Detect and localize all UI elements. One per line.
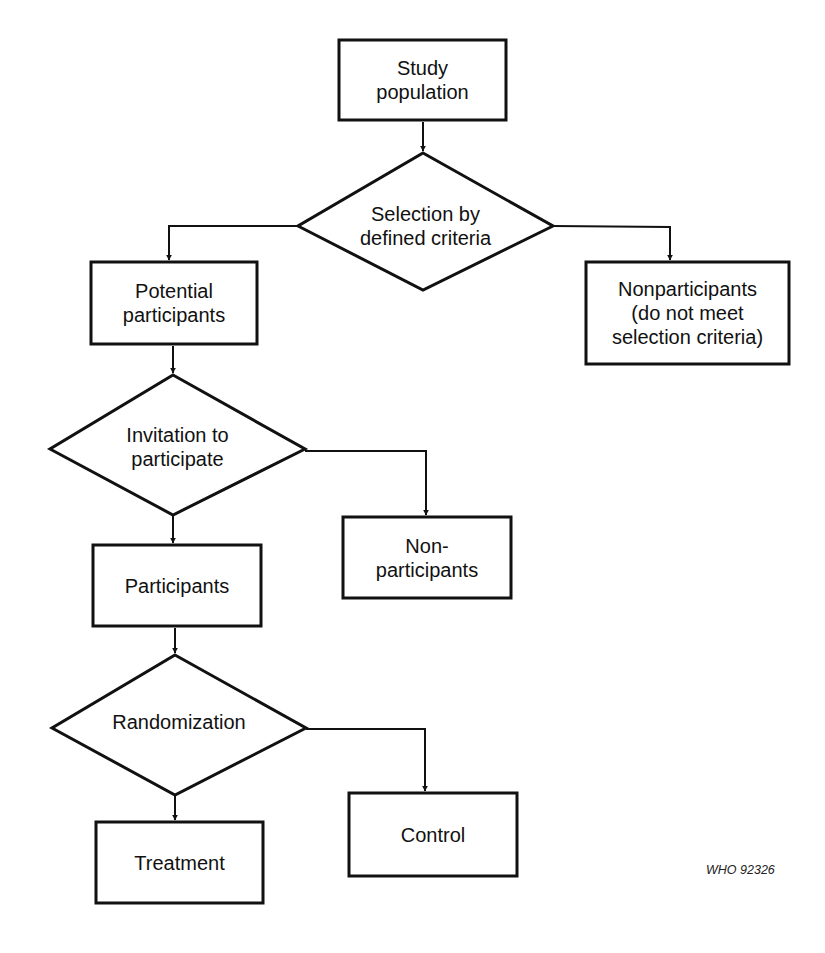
label-selection: Selection by defined criteria	[298, 186, 553, 266]
arrow-randomization-to-control	[306, 729, 425, 791]
label-control: Control	[349, 793, 517, 876]
arrow-selection-to-nonparticipants	[553, 226, 670, 260]
label-potential-participants: Potential participants	[91, 262, 257, 344]
label-participants: Participants	[93, 545, 261, 626]
label-non-participants: Non- participants	[343, 517, 511, 598]
arrow-selection-to-potential	[169, 226, 298, 260]
label-randomization: Randomization	[52, 702, 306, 742]
label-nonparticipants-selection: Nonparticipants (do not meet selection c…	[586, 262, 789, 364]
arrow-invitation-to-nonparticipants	[305, 451, 426, 515]
label-treatment: Treatment	[96, 822, 263, 903]
figure-id-label: WHO 92326	[706, 863, 775, 877]
label-study-population: Study population	[339, 40, 506, 120]
label-invitation: Invitation to participate	[50, 407, 305, 487]
